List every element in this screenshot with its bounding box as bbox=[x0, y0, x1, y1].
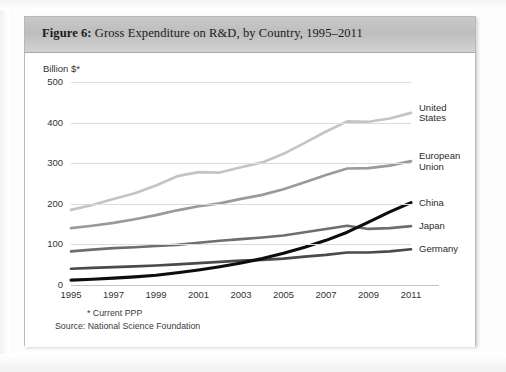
y-tick-label: 100 bbox=[29, 238, 63, 249]
x-axis-tick-labels: 199519971999200120032005200720092011 bbox=[71, 289, 411, 303]
chart-body: Billion $* 5004003002001000 199519971999… bbox=[25, 53, 475, 347]
series-label-line: Japan bbox=[419, 221, 445, 232]
plot-area bbox=[71, 82, 411, 285]
page-canvas: Figure 6: Gross Expenditure on R&D, by C… bbox=[0, 0, 506, 372]
x-tick-label: 1999 bbox=[145, 289, 166, 300]
series-label-united-states: UnitedStates bbox=[419, 103, 446, 124]
x-tick-label: 2007 bbox=[315, 289, 336, 300]
series-label-line: Union bbox=[419, 162, 460, 173]
figure-header-band: Figure 6: Gross Expenditure on R&D, by C… bbox=[25, 17, 475, 53]
gridline bbox=[71, 244, 411, 245]
page-edge-bottom bbox=[0, 354, 506, 372]
series-line-united-states bbox=[71, 113, 411, 210]
x-axis-baseline bbox=[71, 285, 439, 286]
x-tick-label: 1995 bbox=[60, 289, 81, 300]
series-label-germany: Germany bbox=[419, 244, 458, 255]
y-tick-label: 200 bbox=[29, 198, 63, 209]
y-axis-title: Billion $* bbox=[43, 63, 80, 74]
gridline bbox=[71, 204, 411, 205]
page-edge-left bbox=[0, 0, 14, 372]
gridline bbox=[71, 82, 411, 83]
series-line-germany bbox=[71, 249, 411, 268]
y-tick-label: 300 bbox=[29, 157, 63, 168]
gridline bbox=[71, 123, 411, 124]
figure-title: Figure 6: Gross Expenditure on R&D, by C… bbox=[42, 26, 363, 41]
footnote-source: Source: National Science Foundation bbox=[55, 321, 200, 331]
series-label-line: Germany bbox=[419, 244, 458, 255]
chart-lines bbox=[71, 82, 411, 285]
series-label-line: States bbox=[419, 113, 446, 124]
series-label-japan: Japan bbox=[419, 221, 445, 232]
page-edge-top bbox=[0, 0, 506, 10]
x-tick-label: 2005 bbox=[273, 289, 294, 300]
x-tick-label: 2003 bbox=[230, 289, 251, 300]
series-label-china: China bbox=[419, 198, 444, 209]
series-line-european-union bbox=[71, 161, 411, 228]
gridline bbox=[71, 163, 411, 164]
y-tick-label: 400 bbox=[29, 117, 63, 128]
y-tick-label: 500 bbox=[29, 76, 63, 87]
series-line-china bbox=[71, 203, 411, 281]
footnote-ppp: * Current PPP bbox=[87, 308, 142, 318]
y-tick-label: 0 bbox=[29, 279, 63, 290]
figure-label: Figure 6: bbox=[42, 26, 92, 40]
series-label-line: China bbox=[419, 198, 444, 209]
y-axis-tick-labels: 5004003002001000 bbox=[29, 82, 63, 285]
figure-card: Figure 6: Gross Expenditure on R&D, by C… bbox=[24, 16, 476, 346]
x-tick-label: 1997 bbox=[103, 289, 124, 300]
x-tick-label: 2001 bbox=[188, 289, 209, 300]
series-label-european-union: EuropeanUnion bbox=[419, 151, 460, 172]
x-tick-label: 2009 bbox=[358, 289, 379, 300]
series-line-japan bbox=[71, 226, 411, 252]
x-tick-label: 2011 bbox=[401, 289, 421, 300]
figure-title-text: Gross Expenditure on R&D, by Country, 19… bbox=[95, 26, 363, 40]
